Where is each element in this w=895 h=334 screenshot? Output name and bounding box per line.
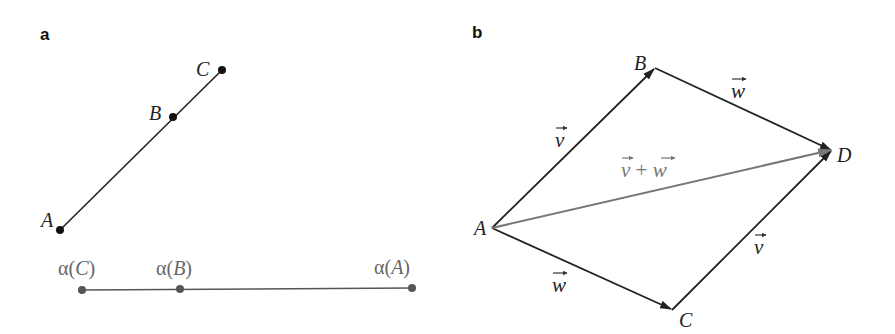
point-a-label-b: A — [472, 217, 487, 239]
panel-a-label: a — [40, 25, 50, 44]
point-c-label-b: C — [679, 309, 693, 331]
vector-ac — [492, 228, 671, 309]
image-line — [82, 288, 412, 290]
point-a-label: A — [39, 209, 54, 231]
line-segment-abc — [60, 70, 222, 230]
point-a — [56, 226, 64, 234]
label-v-plus-w: v + w — [621, 158, 675, 182]
point-b — [169, 113, 177, 121]
panel-b-label: b — [472, 23, 482, 42]
panel-b: b A B C D v w w v — [472, 23, 852, 331]
label-v-ab: v — [555, 128, 567, 152]
svg-text:v: v — [555, 128, 565, 152]
image-point-c-label: α(C) — [58, 257, 95, 280]
label-w-bd: w — [731, 79, 746, 103]
label-w-ac: w — [552, 273, 567, 297]
point-b-label: B — [149, 102, 161, 124]
figure: a A B C α(C) α(B) α(A) b A B C D — [0, 0, 895, 334]
vector-cd — [672, 151, 831, 310]
svg-text:v + w: v + w — [621, 158, 667, 182]
svg-text:w: w — [731, 79, 745, 103]
image-point-a — [408, 284, 416, 292]
point-c — [218, 66, 226, 74]
point-c-label: C — [196, 58, 210, 80]
point-b-label-b: B — [634, 52, 646, 74]
image-point-b — [176, 285, 184, 293]
vector-ab — [492, 69, 654, 228]
image-point-b-label: α(B) — [156, 257, 192, 280]
point-d-label-b: D — [836, 144, 852, 166]
svg-text:w: w — [552, 273, 566, 297]
label-v-cd: v — [754, 235, 766, 259]
panel-a: a A B C α(C) α(B) α(A) — [39, 25, 416, 294]
image-point-c — [78, 286, 86, 294]
image-point-a-label: α(A) — [374, 256, 410, 279]
svg-text:v: v — [754, 235, 764, 259]
